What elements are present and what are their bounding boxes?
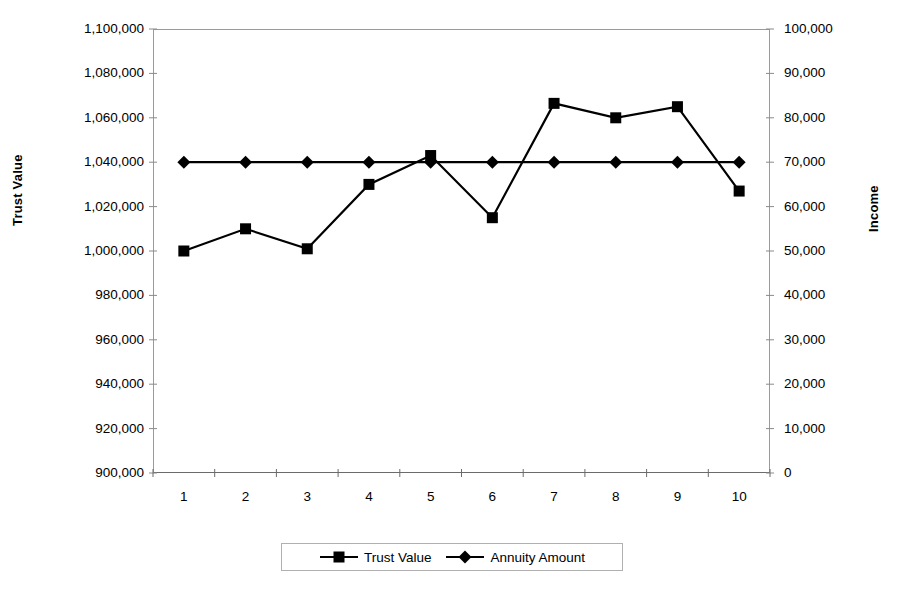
y-axis-right-tick-label: 20,000 — [784, 377, 825, 391]
legend-entry: Trust Value — [319, 549, 432, 565]
y-axis-left-tick-label: 1,040,000 — [84, 155, 144, 169]
x-axis-tick-label: 9 — [657, 490, 697, 504]
x-axis-tick-label: 6 — [472, 490, 512, 504]
data-point-diamond — [733, 156, 746, 169]
plot-area — [153, 29, 770, 473]
data-point-square — [178, 246, 189, 257]
data-point-diamond — [609, 156, 622, 169]
y-axis-right-tick-label: 40,000 — [784, 288, 825, 302]
data-point-diamond — [362, 156, 375, 169]
y-axis-left-tick-label: 1,000,000 — [84, 244, 144, 258]
x-axis-tick-label: 2 — [226, 490, 266, 504]
data-point-square — [363, 179, 374, 190]
x-axis-tick-label: 1 — [164, 490, 204, 504]
data-point-square — [672, 101, 683, 112]
data-point-diamond — [177, 156, 190, 169]
y-axis-left-tick-label: 960,000 — [95, 333, 144, 347]
y-axis-left-tick-label: 1,100,000 — [84, 22, 144, 36]
y-axis-right-tick-label: 100,000 — [784, 22, 833, 36]
data-point-square — [240, 223, 251, 234]
y-axis-right-tick-label: 60,000 — [784, 200, 825, 214]
legend-label: Trust Value — [364, 550, 432, 565]
y-axis-right-tick-label: 90,000 — [784, 66, 825, 80]
y-axis-right-tick-label: 80,000 — [784, 111, 825, 125]
x-axis-tick-label: 8 — [596, 490, 636, 504]
series-2 — [177, 156, 745, 169]
data-point-square — [549, 98, 560, 109]
y-axis-left-tick-label: 1,060,000 — [84, 111, 144, 125]
chart-legend: Trust ValueAnnuity Amount — [281, 543, 623, 571]
y-axis-left-tick-label: 900,000 — [95, 466, 144, 480]
series-1 — [178, 98, 744, 257]
y-axis-left-tick-label: 920,000 — [95, 422, 144, 436]
data-point-diamond — [301, 156, 314, 169]
diamond-marker — [445, 549, 485, 565]
x-axis-tick-label: 4 — [349, 490, 389, 504]
square-marker — [319, 549, 359, 565]
line-chart: Trust Value Income 1,100,0001,080,0001,0… — [0, 0, 901, 599]
y-axis-left-title: Trust Value — [10, 206, 25, 226]
y-axis-right-tick-label: 0 — [784, 466, 792, 480]
y-axis-left-tick-label: 1,020,000 — [84, 200, 144, 214]
data-point-diamond — [239, 156, 252, 169]
x-axis-tick-label: 5 — [411, 490, 451, 504]
y-axis-right-title: Income — [866, 212, 881, 232]
x-axis-tick-label: 10 — [719, 490, 759, 504]
y-axis-right-tick-label: 10,000 — [784, 422, 825, 436]
x-axis-tick-label: 3 — [287, 490, 327, 504]
y-axis-right-tick-label: 70,000 — [784, 155, 825, 169]
series-layer — [177, 98, 745, 257]
y-axis-left-tick-label: 980,000 — [95, 288, 144, 302]
data-point-square — [610, 112, 621, 123]
legend-entry: Annuity Amount — [445, 549, 585, 565]
data-point-diamond — [548, 156, 561, 169]
y-axis-left-tick-label: 1,080,000 — [84, 66, 144, 80]
legend-label: Annuity Amount — [490, 550, 585, 565]
y-axis-right-tick-label: 50,000 — [784, 244, 825, 258]
y-axis-right-tick-label: 30,000 — [784, 333, 825, 347]
y-axis-left-tick-label: 940,000 — [95, 377, 144, 391]
data-point-square — [734, 186, 745, 197]
x-axis-tick-label: 7 — [534, 490, 574, 504]
series-line — [184, 103, 739, 251]
axis-tick-marks — [149, 29, 774, 477]
data-point-diamond — [486, 156, 499, 169]
data-point-square — [302, 243, 313, 254]
data-point-diamond — [671, 156, 684, 169]
data-point-square — [487, 212, 498, 223]
